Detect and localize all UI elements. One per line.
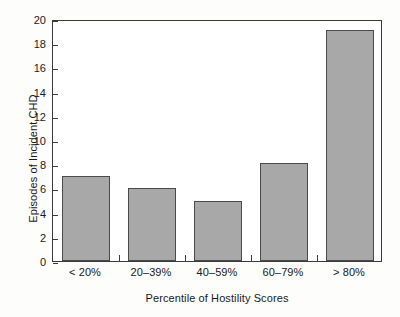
y-axis-tick-label: 2 — [6, 232, 46, 243]
y-axis-tick-mark — [53, 69, 58, 70]
y-axis-tick-label: 4 — [6, 208, 46, 219]
y-axis-tick-mark — [53, 118, 58, 119]
y-axis-tick-mark — [53, 263, 58, 264]
y-axis-tick-label: 0 — [6, 257, 46, 268]
y-axis-tick-mark — [53, 94, 58, 95]
plot-area — [52, 20, 382, 262]
bar — [194, 201, 243, 262]
x-axis-tick-label: 60–79% — [250, 266, 316, 278]
y-axis-tick-label: 18 — [6, 39, 46, 50]
x-axis-tick-label: > 80% — [316, 266, 382, 278]
y-axis-tick-mark — [53, 45, 58, 46]
y-axis-tick-label: 10 — [6, 136, 46, 147]
y-axis-tick-label: 20 — [6, 15, 46, 26]
y-axis-tick-mark — [53, 142, 58, 143]
y-axis-tick-mark — [53, 166, 58, 167]
x-axis-tick-label: 20–39% — [118, 266, 184, 278]
y-axis-tick-mark — [53, 21, 58, 22]
bar — [326, 30, 375, 261]
x-axis-tick-label: < 20% — [52, 266, 118, 278]
x-axis-tick-mark — [317, 255, 318, 261]
x-axis-tick-mark — [119, 255, 120, 261]
y-axis-tick-mark — [53, 239, 58, 240]
chart-figure: Episodes of Incident CHD 024681012141618… — [0, 0, 400, 317]
x-axis-tick-mark — [185, 255, 186, 261]
y-axis-tick-label: 6 — [6, 184, 46, 195]
x-axis-title: Percentile of Hostility Scores — [52, 292, 382, 304]
y-axis-tick-label: 14 — [6, 87, 46, 98]
bar — [260, 163, 309, 261]
x-axis-tick-mark — [251, 255, 252, 261]
y-axis-tick-label: 8 — [6, 160, 46, 171]
y-axis-tick-label: 12 — [6, 111, 46, 122]
y-axis-tick-mark — [53, 190, 58, 191]
y-axis-tick-mark — [53, 215, 58, 216]
bar — [62, 176, 111, 261]
x-axis-tick-label: 40–59% — [184, 266, 250, 278]
y-axis-tick-label: 16 — [6, 63, 46, 74]
bar — [128, 188, 177, 261]
